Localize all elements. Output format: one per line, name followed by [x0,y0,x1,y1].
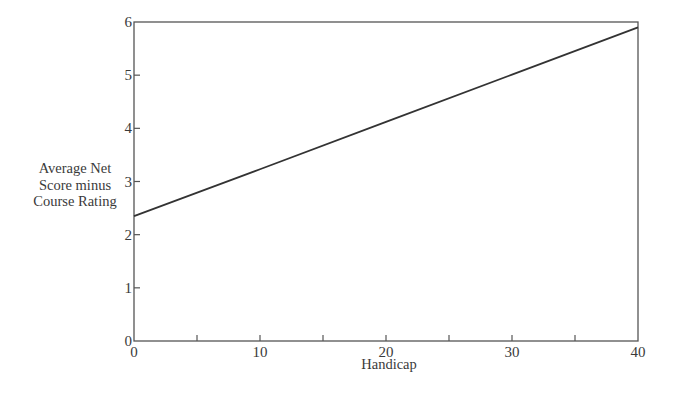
y-tick-label: 1 [125,280,133,296]
y-axis-label: Average Net Score minus Course Rating [22,160,128,210]
plot-frame [134,22,638,341]
x-axis-label: Handicap [339,356,439,373]
series-line [134,27,638,216]
y-tick-label: 2 [125,227,133,243]
axis-ticks [134,75,575,341]
data-series [134,27,638,216]
y-tick-label: 5 [125,67,133,83]
y-axis-label-line-2: Score minus [22,177,128,194]
y-tick-label: 6 [125,14,133,30]
y-tick-label: 4 [125,120,133,136]
y-axis-label-line-1: Average Net [22,160,128,177]
x-tick-label: 10 [253,344,268,360]
y-axis-label-line-3: Course Rating [22,193,128,210]
x-tick-label: 0 [130,344,138,360]
plot-border [134,22,638,341]
tick-labels: 0123456010203040 [125,14,646,360]
x-tick-label: 40 [631,344,646,360]
x-tick-label: 30 [505,344,520,360]
